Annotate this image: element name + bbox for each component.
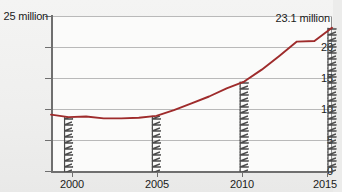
measure-bar-2010 — [240, 82, 249, 172]
data-series-line — [51, 28, 332, 118]
measure-bar-2015 — [328, 28, 337, 172]
measure-bar-2000 — [64, 117, 73, 172]
measure-bar-2005 — [152, 116, 161, 172]
peak-value-annotation: 23.1 million — [276, 12, 330, 24]
